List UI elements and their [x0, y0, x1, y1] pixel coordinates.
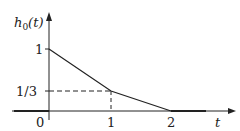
- x-tick-label-2: 2: [167, 115, 175, 130]
- x-axis-label: t: [215, 115, 221, 130]
- x-tick-label-0: 0: [36, 115, 44, 130]
- y-axis-arrow-icon: [46, 12, 52, 21]
- chart: h0(t) 1 1/3 0 1 2 t: [0, 0, 240, 131]
- y-tick-label-one-third: 1/3: [16, 84, 37, 99]
- h0-line: [49, 49, 171, 111]
- y-axis-label: h0(t): [14, 15, 43, 32]
- x-tick-label-1: 1: [107, 115, 115, 130]
- y-tick-label-1: 1: [35, 42, 43, 57]
- x-axis-arrow-icon: [228, 108, 236, 114]
